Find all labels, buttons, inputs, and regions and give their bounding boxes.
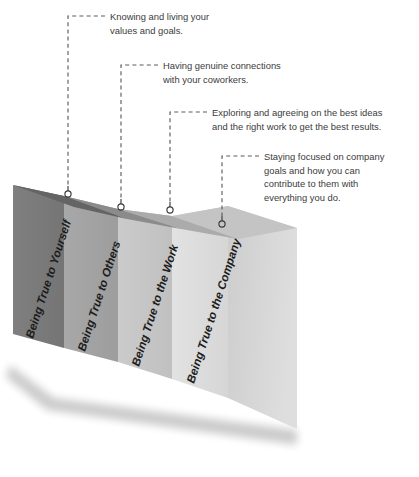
callout-4: Staying focused on company goals and how…: [264, 151, 387, 203]
callout-1: Knowing and living your values and goals…: [110, 11, 212, 36]
leader-line-1: [68, 16, 105, 186]
circle-marker-3: [167, 202, 173, 213]
leader-line-2: [121, 65, 158, 199]
circle-marker-2: [118, 199, 124, 210]
callout-1-text: Knowing and living your values and goals…: [110, 11, 212, 36]
callout-3-text: Exploring and agreeing on the best ideas…: [212, 107, 385, 132]
leader-line-3: [170, 112, 207, 202]
block-end-face: [228, 206, 297, 429]
callout-2: Having genuine connections with your cow…: [162, 60, 283, 85]
callout-2-text: Having genuine connections with your cow…: [162, 60, 283, 85]
callout-3: Exploring and agreeing on the best ideas…: [212, 107, 385, 132]
callout-4-text: Staying focused on company goals and how…: [264, 151, 387, 203]
circle-marker-1: [65, 186, 71, 197]
being-true-framework-diagram: Being True to the Company Being True to …: [0, 0, 419, 477]
